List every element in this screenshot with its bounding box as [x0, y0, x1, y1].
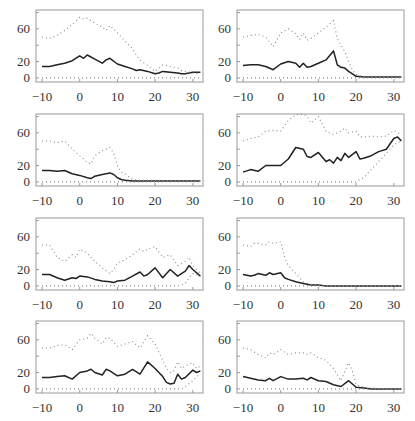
series-upper-line — [243, 114, 401, 141]
x-tick-label: −10 — [32, 297, 52, 312]
plot-frame — [36, 321, 203, 393]
x-tick-label: 10 — [111, 89, 124, 104]
series-solid-line — [42, 266, 200, 283]
series-upper-line — [243, 348, 401, 389]
x-tick-label: −10 — [32, 193, 52, 208]
x-tick-label: 20 — [350, 193, 363, 208]
y-tick-label: 20 — [218, 158, 231, 173]
x-tick-label: 0 — [277, 193, 284, 208]
x-tick-label: 10 — [312, 89, 325, 104]
y-tick-label: 60 — [17, 21, 30, 36]
y-tick-label: 0 — [225, 70, 232, 85]
series-lower-line — [243, 141, 401, 182]
x-tick-label: −10 — [32, 400, 52, 415]
x-tick-label: 30 — [186, 193, 199, 208]
y-tick-label: 60 — [17, 332, 30, 347]
chart-panel-row1-right: 02060−100102030 — [218, 10, 404, 104]
series-solid-line — [243, 273, 401, 286]
y-tick-label: 20 — [17, 262, 30, 277]
y-tick-label: 0 — [225, 174, 232, 189]
x-tick-label: 30 — [186, 400, 199, 415]
y-tick-label: 20 — [218, 365, 231, 380]
series-upper-line — [243, 21, 401, 78]
y-tick-label: 20 — [218, 262, 231, 277]
chart-panel-row4-right: 02060−100102030 — [218, 321, 404, 415]
plot-frame — [237, 10, 404, 82]
series-upper-line — [42, 245, 200, 274]
x-tick-label: 0 — [76, 89, 83, 104]
x-tick-label: 10 — [312, 193, 325, 208]
y-tick-label: 0 — [225, 381, 232, 396]
x-tick-label: 20 — [350, 297, 363, 312]
x-tick-label: 10 — [111, 400, 124, 415]
x-tick-label: 20 — [350, 89, 363, 104]
y-tick-label: 60 — [218, 332, 231, 347]
series-solid-line — [42, 171, 200, 182]
y-tick-label: 0 — [24, 174, 31, 189]
x-tick-label: 0 — [76, 297, 83, 312]
y-tick-label: 20 — [218, 54, 231, 69]
series-solid-line — [243, 377, 401, 389]
x-tick-label: 30 — [387, 400, 400, 415]
x-tick-label: 0 — [76, 193, 83, 208]
chart-panel-row3-right: 02060−100102030 — [218, 218, 404, 312]
figure-canvas: 02060−10010203002060−10010203002060−1001… — [0, 0, 415, 421]
x-tick-label: 30 — [186, 89, 199, 104]
x-tick-label: −10 — [233, 89, 253, 104]
series-solid-line — [243, 51, 401, 77]
x-tick-label: 30 — [387, 193, 400, 208]
x-tick-label: 0 — [277, 400, 284, 415]
x-tick-label: 20 — [149, 89, 162, 104]
y-tick-label: 60 — [218, 125, 231, 140]
series-upper-line — [42, 333, 200, 372]
y-tick-label: 20 — [17, 158, 30, 173]
x-tick-label: 10 — [312, 400, 325, 415]
plot-frame — [36, 10, 203, 82]
x-tick-label: 20 — [350, 400, 363, 415]
x-tick-label: −10 — [233, 297, 253, 312]
y-tick-label: 0 — [24, 381, 31, 396]
chart-panel-row1-left: 02060−100102030 — [17, 10, 203, 104]
plot-frame — [36, 114, 203, 186]
series-solid-line — [42, 55, 200, 74]
y-tick-label: 0 — [225, 278, 232, 293]
x-tick-label: 10 — [312, 297, 325, 312]
x-tick-label: 30 — [387, 89, 400, 104]
y-tick-label: 20 — [17, 365, 30, 380]
y-tick-label: 0 — [24, 278, 31, 293]
series-solid-line — [243, 137, 401, 172]
y-tick-label: 60 — [17, 229, 30, 244]
series-solid-line — [42, 362, 200, 384]
chart-panel-row2-left: 02060−100102030 — [17, 114, 203, 208]
x-tick-label: 0 — [277, 297, 284, 312]
panels-container: 02060−10010203002060−10010203002060−1001… — [17, 10, 404, 415]
y-tick-label: 60 — [218, 229, 231, 244]
series-upper-line — [243, 242, 401, 286]
x-tick-label: 20 — [149, 297, 162, 312]
series-upper-line — [42, 141, 200, 181]
plot-frame — [237, 218, 404, 290]
x-tick-label: 20 — [149, 193, 162, 208]
x-tick-label: 10 — [111, 297, 124, 312]
x-tick-label: −10 — [32, 89, 52, 104]
y-tick-label: 20 — [17, 54, 30, 69]
chart-panel-row4-left: 02060−100102030 — [17, 321, 203, 415]
x-tick-label: 20 — [149, 400, 162, 415]
x-tick-label: −10 — [233, 193, 253, 208]
x-tick-label: 10 — [111, 193, 124, 208]
x-tick-label: 30 — [387, 297, 400, 312]
y-tick-label: 60 — [17, 125, 30, 140]
plot-frame — [237, 321, 404, 393]
x-tick-label: −10 — [233, 400, 253, 415]
chart-panel-row2-right: 02060−100102030 — [218, 114, 404, 208]
x-tick-label: 30 — [186, 297, 199, 312]
x-tick-label: 0 — [277, 89, 284, 104]
plot-frame — [237, 114, 404, 186]
y-tick-label: 60 — [218, 21, 231, 36]
x-tick-label: 0 — [76, 400, 83, 415]
y-tick-label: 0 — [24, 70, 31, 85]
chart-panel-row3-left: 02060−100102030 — [17, 218, 203, 312]
